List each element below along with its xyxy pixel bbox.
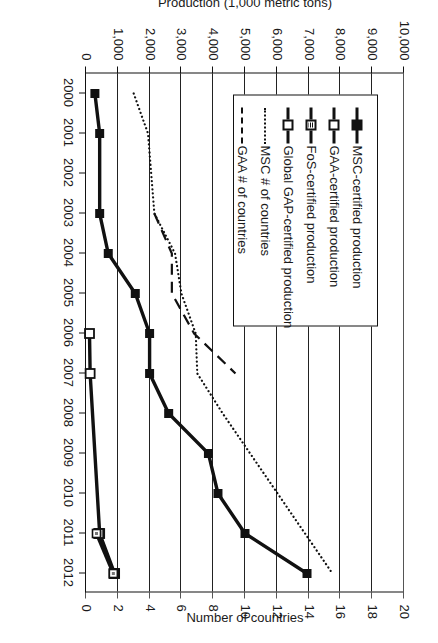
legend-key-icon-fos-prod bbox=[302, 105, 322, 145]
x-axis-tick bbox=[79, 132, 85, 133]
y-axis-left-tick-label: 6,000 bbox=[269, 0, 284, 60]
data-point-gaa-prod bbox=[85, 329, 94, 338]
x-axis-tick bbox=[79, 252, 85, 253]
data-point-msc-prod bbox=[145, 369, 154, 378]
x-axis-line: 2000200120022003200420052006200720082009… bbox=[85, 72, 86, 592]
y-axis-tick bbox=[117, 66, 118, 73]
x-axis-tick-label: 2007 bbox=[61, 358, 76, 387]
x-axis-tick-label: 2004 bbox=[61, 238, 76, 267]
data-point-globalgap-prod bbox=[92, 529, 100, 537]
legend-glyph bbox=[283, 119, 294, 130]
data-point-msc-prod bbox=[213, 489, 222, 498]
y-axis-right-tick-label: 4 bbox=[142, 604, 157, 611]
x-axis-tick bbox=[79, 412, 85, 413]
data-point-msc-prod bbox=[90, 89, 99, 98]
y-axis-left-tick-label: 5,000 bbox=[238, 0, 253, 60]
x-axis-tick-label: 2002 bbox=[61, 158, 76, 187]
y-axis-right-tick-label: 0 bbox=[79, 604, 94, 611]
legend-glyph bbox=[352, 119, 363, 130]
data-point-msc-prod bbox=[241, 529, 250, 538]
x-axis-tick bbox=[79, 572, 85, 573]
x-axis-tick bbox=[79, 452, 85, 453]
x-axis-tick bbox=[79, 292, 85, 293]
data-point-msc-prod bbox=[95, 209, 104, 218]
legend-key-icon-globalgap-prod bbox=[279, 105, 299, 145]
x-axis-tick-label: 2012 bbox=[61, 558, 76, 587]
legend-item-label: GAA # of countries bbox=[236, 145, 249, 253]
data-point-globalgap-prod bbox=[109, 569, 117, 577]
legend-item-label: Global GAP-certified production bbox=[282, 145, 295, 328]
y-axis-left-tick-label: 10,000 bbox=[397, 0, 412, 60]
legend-item-globalgap-prod: Global GAP-certified production bbox=[277, 105, 300, 317]
x-axis-tick-label: 2010 bbox=[61, 478, 76, 507]
y-axis-tick bbox=[212, 66, 213, 73]
data-point-msc-prod bbox=[104, 249, 113, 258]
y-axis-tick bbox=[308, 66, 309, 73]
chart-stage: Production (1,000 metric tons) Number of… bbox=[0, 0, 438, 643]
y-axis-right-tick-label: 16 bbox=[333, 604, 348, 618]
y-axis-left-tick-label: 1,000 bbox=[110, 0, 125, 60]
legend-item-msc-prod: MSC-certified production bbox=[346, 105, 369, 317]
legend-item-label: FoS-certified production bbox=[305, 145, 318, 283]
series-line-globalgap-prod bbox=[96, 533, 113, 573]
y-axis-tick bbox=[339, 66, 340, 73]
x-axis-tick-label: 2000 bbox=[61, 78, 76, 107]
legend-item-label: GAA-certified production bbox=[328, 145, 341, 287]
y-axis-right-tick-label: 6 bbox=[174, 604, 189, 611]
legend-item-label: MSC-certified production bbox=[351, 145, 364, 288]
caption-sliver bbox=[0, 0, 7, 643]
legend-item-label: MSC # of countries bbox=[259, 145, 272, 256]
x-axis-tick bbox=[79, 172, 85, 173]
y-axis-right-tick-label: 10 bbox=[238, 604, 253, 618]
legend-key-icon-msc-countries bbox=[256, 105, 276, 145]
x-axis-tick bbox=[79, 212, 85, 213]
x-axis-tick-label: 2011 bbox=[61, 518, 76, 546]
y-axis-left-tick-label: 8,000 bbox=[333, 0, 348, 60]
y-axis-tick bbox=[276, 66, 277, 73]
legend-item-gaa-countries: GAA # of countries bbox=[231, 105, 254, 317]
legend-item-msc-countries: MSC # of countries bbox=[254, 105, 277, 317]
x-axis-tick bbox=[79, 532, 85, 533]
x-axis-tick-label: 2001 bbox=[61, 118, 76, 147]
y-axis-left-tick-label: 4,000 bbox=[206, 0, 221, 60]
y-axis-right-tick-label: 20 bbox=[397, 604, 412, 618]
chart-canvas: Production (1,000 metric tons) Number of… bbox=[0, 0, 438, 643]
legend-box: MSC-certified productionGAA-certified pr… bbox=[233, 94, 378, 326]
y-axis-tick bbox=[180, 66, 181, 73]
y-axis-left-tick-label: 9,000 bbox=[365, 0, 380, 60]
y-axis-right-tick-label: 2 bbox=[110, 604, 125, 611]
legend-glyph bbox=[242, 107, 244, 143]
legend-key-icon-gaa-prod bbox=[325, 105, 345, 145]
data-point-msc-prod bbox=[164, 409, 173, 418]
data-point-msc-prod bbox=[303, 569, 312, 578]
x-axis-tick bbox=[79, 332, 85, 333]
data-point-msc-prod bbox=[145, 329, 154, 338]
legend-key-icon-msc-prod bbox=[348, 105, 368, 145]
y-axis-right-tick-label: 18 bbox=[365, 604, 380, 618]
y-axis-tick bbox=[149, 66, 150, 73]
x-axis-tick bbox=[79, 492, 85, 493]
y-axis-tick bbox=[371, 66, 372, 73]
y-axis-right-tick-label: 12 bbox=[269, 604, 284, 618]
top-axis-line bbox=[403, 72, 404, 592]
x-axis-tick-label: 2009 bbox=[61, 438, 76, 467]
y-axis-tick bbox=[244, 66, 245, 73]
legend-item-fos-prod: FoS-certified production bbox=[300, 105, 323, 317]
series-line-gaa-countries bbox=[154, 213, 235, 373]
y-axis-left-tick-label: 2,000 bbox=[142, 0, 157, 60]
x-axis-tick bbox=[79, 372, 85, 373]
data-point-msc-prod bbox=[95, 129, 104, 138]
y-axis-left-tick-label: 0 bbox=[79, 0, 94, 60]
data-point-gaa-prod bbox=[86, 369, 95, 378]
y-axis-left-tick-label: 7,000 bbox=[301, 0, 316, 60]
x-axis-tick-label: 2005 bbox=[61, 278, 76, 307]
legend-glyph bbox=[306, 119, 317, 130]
x-axis-tick-label: 2003 bbox=[61, 198, 76, 227]
y-axis-right-tick-label: 14 bbox=[301, 604, 316, 618]
legend-glyph bbox=[265, 107, 267, 143]
legend-key-icon-gaa-countries bbox=[233, 105, 253, 145]
data-point-msc-prod bbox=[131, 289, 140, 298]
data-point-msc-prod bbox=[204, 449, 213, 458]
x-axis-tick bbox=[79, 92, 85, 93]
legend-item-gaa-prod: GAA-certified production bbox=[323, 105, 346, 317]
